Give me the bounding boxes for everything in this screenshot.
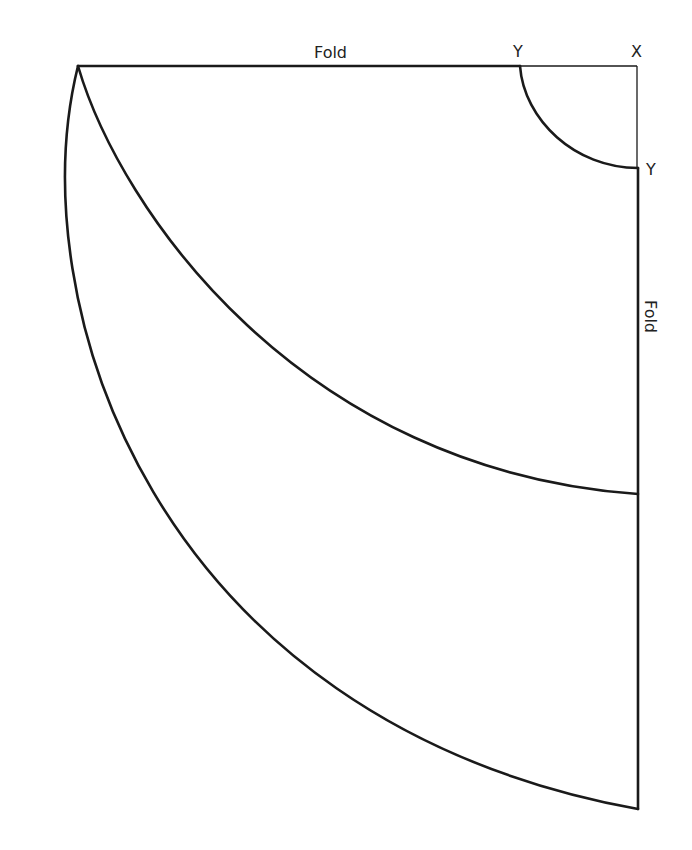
inner-hem-curve: [78, 66, 638, 494]
waist-right-label: Y: [645, 160, 656, 179]
corner-label: X: [631, 42, 642, 61]
skirt-pattern-diagram: Fold Y X Y Fold: [0, 0, 692, 850]
waist-top-label: Y: [512, 42, 523, 61]
waist-curve: [520, 66, 638, 168]
outer-hem-curve: [65, 66, 638, 809]
top-fold-label: Fold: [314, 43, 347, 62]
right-fold-label: Fold: [641, 300, 660, 333]
